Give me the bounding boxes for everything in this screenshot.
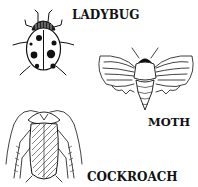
ladybug-icon xyxy=(8,4,74,78)
insect-illustration: LADYBUG xyxy=(0,0,198,187)
cockroach-label: COCKROACH xyxy=(87,171,178,183)
moth-icon xyxy=(94,44,198,116)
moth-label: MOTH xyxy=(148,117,190,129)
cockroach-icon xyxy=(4,102,84,186)
ladybug-label: LADYBUG xyxy=(72,9,140,21)
